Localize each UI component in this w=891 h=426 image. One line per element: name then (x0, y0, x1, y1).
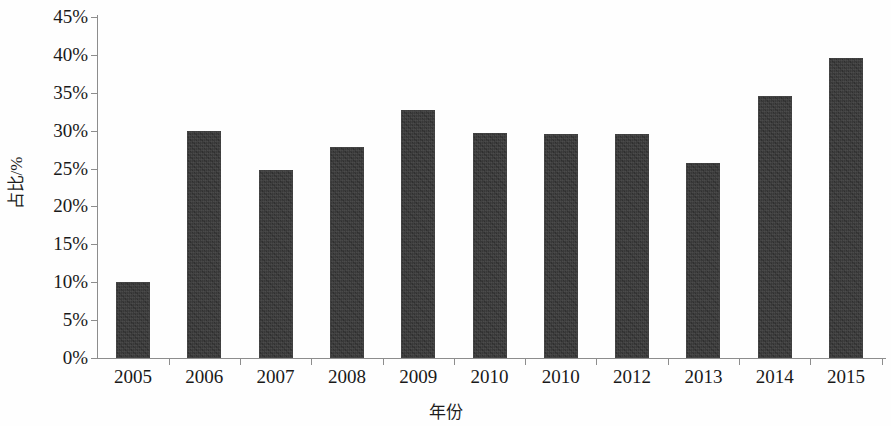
y-axis-title: 占比/% (2, 128, 27, 238)
y-tick-label: 30% (28, 121, 88, 140)
y-tick-label: 15% (28, 234, 88, 253)
x-tick-mark (739, 359, 740, 365)
x-tick-mark (596, 359, 597, 365)
bar (686, 163, 720, 358)
x-axis-line (97, 358, 886, 359)
x-tick-mark (668, 359, 669, 365)
y-tick-label: 35% (28, 83, 88, 102)
x-tick-mark (240, 359, 241, 365)
bar (116, 282, 150, 358)
bar (259, 170, 293, 358)
bar-chart: 占比/% 0%5%10%15%20%25%30%35%40%45% 200520… (0, 0, 891, 426)
y-tick-label: 20% (28, 196, 88, 215)
x-tick-mark (169, 359, 170, 365)
x-tick-mark (810, 359, 811, 365)
bar (473, 133, 507, 358)
x-tick-mark (383, 359, 384, 365)
y-tick-label: 25% (28, 159, 88, 178)
y-tick-label: 45% (28, 7, 88, 26)
y-tick-label: 40% (28, 45, 88, 64)
bar (330, 147, 364, 358)
y-tick-label: 10% (28, 272, 88, 291)
x-tick-mark (882, 359, 883, 365)
x-tick-label: 2015 (801, 366, 891, 388)
bar (615, 134, 649, 358)
y-tick-label: 0% (28, 348, 88, 367)
bar (544, 134, 578, 358)
y-axis-line (97, 15, 98, 359)
x-tick-mark (454, 359, 455, 365)
x-tick-mark (311, 359, 312, 365)
y-tick-label: 5% (28, 310, 88, 329)
bar (829, 58, 863, 358)
x-axis-title: 年份 (0, 398, 891, 423)
bar-series (0, 0, 891, 426)
bar (187, 131, 221, 358)
x-tick-mark (525, 359, 526, 365)
bar (758, 96, 792, 358)
bar (401, 110, 435, 358)
